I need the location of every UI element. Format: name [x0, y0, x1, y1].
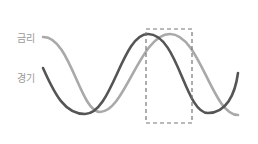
interest-rate-curve — [43, 34, 238, 115]
cycle-diagram — [0, 0, 258, 144]
economy-curve — [43, 34, 238, 114]
